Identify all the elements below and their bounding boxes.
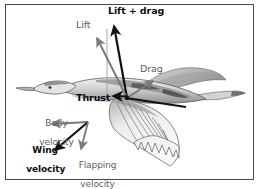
- label-flapping-velocity: Flapping velocity: [66, 152, 118, 187]
- label-wing-velocity-line1: Wing: [32, 145, 57, 155]
- label-drag: Drag: [140, 64, 163, 74]
- force-diagram-figure: Lift + drag Lift Drag Thrust Body veloci…: [0, 0, 261, 187]
- label-lift-plus-drag: Lift + drag: [108, 6, 164, 16]
- label-body-velocity-line1: Body: [45, 118, 67, 128]
- label-thrust: Thrust: [76, 93, 110, 103]
- label-wing-velocity-line2: velocity: [26, 164, 65, 174]
- force-origin-point: [125, 96, 129, 100]
- bird-tail-tip: [231, 91, 246, 96]
- label-wing-velocity: Wing velocity: [14, 137, 64, 183]
- label-flapping-velocity-line2: velocity: [80, 179, 114, 187]
- bird-beak: [16, 87, 34, 90]
- bird-eye: [49, 86, 52, 88]
- label-lift: Lift: [76, 20, 90, 30]
- label-flapping-velocity-line1: Flapping: [79, 160, 117, 170]
